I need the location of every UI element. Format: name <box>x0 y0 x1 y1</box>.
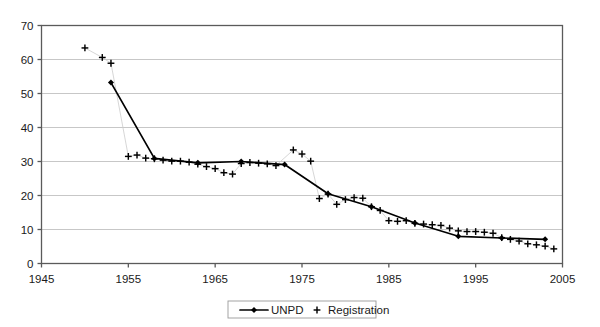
unpd-point-marker <box>542 236 548 242</box>
registration-point <box>212 165 219 172</box>
registration-connector-line <box>85 48 554 249</box>
y-tick-label: 10 <box>21 224 34 236</box>
registration-point <box>446 225 453 232</box>
plot-area-border <box>42 26 563 264</box>
unpd-point-marker <box>455 233 461 239</box>
registration-point <box>455 227 462 234</box>
registration-point <box>524 240 531 247</box>
x-tick-label: 1965 <box>202 273 228 285</box>
plot-frame <box>42 26 563 264</box>
y-tick-label: 30 <box>21 156 34 168</box>
series-registration <box>82 45 558 253</box>
registration-point <box>108 60 115 67</box>
registration-point <box>203 163 210 170</box>
x-tick-label: 1975 <box>289 273 315 285</box>
y-tick-label: 0 <box>27 258 33 270</box>
registration-point <box>507 236 514 243</box>
chart-container: 010203040506070 194519551965197519851995… <box>0 0 600 327</box>
registration-point <box>550 245 557 252</box>
registration-point <box>125 153 132 160</box>
registration-point <box>142 155 149 162</box>
x-tick-label: 1955 <box>116 273 142 285</box>
registration-point <box>394 218 401 225</box>
x-tick-label: 1995 <box>463 273 489 285</box>
unpd-point-marker <box>412 220 418 226</box>
y-tick-label: 40 <box>21 122 34 134</box>
legend-label-unpd: UNPD <box>271 304 304 316</box>
legend-label-registration: Registration <box>328 304 389 316</box>
y-tick-label: 60 <box>21 54 34 66</box>
registration-point <box>438 222 445 229</box>
registration-point <box>542 243 549 250</box>
x-axis-tick-labels: 1945195519651975198519952005 <box>29 273 576 285</box>
chart-canvas: 010203040506070 194519551965197519851995… <box>0 0 600 327</box>
registration-point <box>134 152 141 159</box>
registration-point <box>533 241 540 248</box>
chart-legend: UNPDRegistration <box>228 301 389 318</box>
registration-point <box>316 195 323 202</box>
registration-point <box>490 230 497 237</box>
series-unpd <box>108 80 548 243</box>
registration-point <box>220 169 227 176</box>
registration-point <box>82 45 89 52</box>
unpd-line <box>111 83 545 240</box>
unpd-point-marker <box>499 235 505 241</box>
x-tick-label: 1985 <box>376 273 402 285</box>
x-tick-label: 2005 <box>550 273 576 285</box>
y-tick-label: 70 <box>21 20 34 32</box>
gridlines-group <box>42 26 563 230</box>
y-tick-label: 20 <box>21 190 34 202</box>
y-tick-label: 50 <box>21 88 34 100</box>
y-axis-tick-labels: 010203040506070 <box>21 20 34 270</box>
x-tick-label: 1945 <box>29 273 55 285</box>
